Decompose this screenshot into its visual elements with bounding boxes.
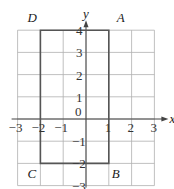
vertex-label-a: A: [116, 10, 125, 25]
grid-svg: xy −3−2−11234321−1−2−30 ABCD: [0, 0, 174, 189]
x-tick-label: −1: [54, 120, 68, 135]
vertex-label-b: B: [112, 166, 120, 181]
y-tick-label: 2: [76, 68, 83, 83]
vertex-label-c: C: [27, 166, 36, 181]
x-tick-label: 1: [105, 120, 112, 135]
tick-labels: −3−2−11234321−1−2−30: [9, 23, 157, 189]
vertex-label-d: D: [26, 10, 37, 25]
y-tick-label: 3: [76, 45, 83, 60]
x-tick-label: −2: [31, 120, 45, 135]
origin-label: 0: [75, 104, 82, 119]
y-arrow-icon: [84, 20, 89, 27]
x-tick-label: −3: [9, 120, 23, 135]
y-tick-label: −3: [72, 179, 86, 189]
x-axis-label: x: [168, 111, 174, 126]
y-tick-label: 1: [76, 90, 83, 105]
x-tick-label: 2: [128, 120, 135, 135]
y-tick-label: 4: [76, 23, 83, 38]
coordinate-grid-diagram: xy −3−2−11234321−1−2−30 ABCD: [0, 0, 174, 189]
x-arrow-icon: [161, 117, 168, 122]
y-tick-label: −1: [72, 134, 86, 149]
y-tick-label: −2: [72, 156, 86, 171]
x-tick-label: 3: [150, 120, 157, 135]
y-axis-label: y: [81, 6, 89, 21]
